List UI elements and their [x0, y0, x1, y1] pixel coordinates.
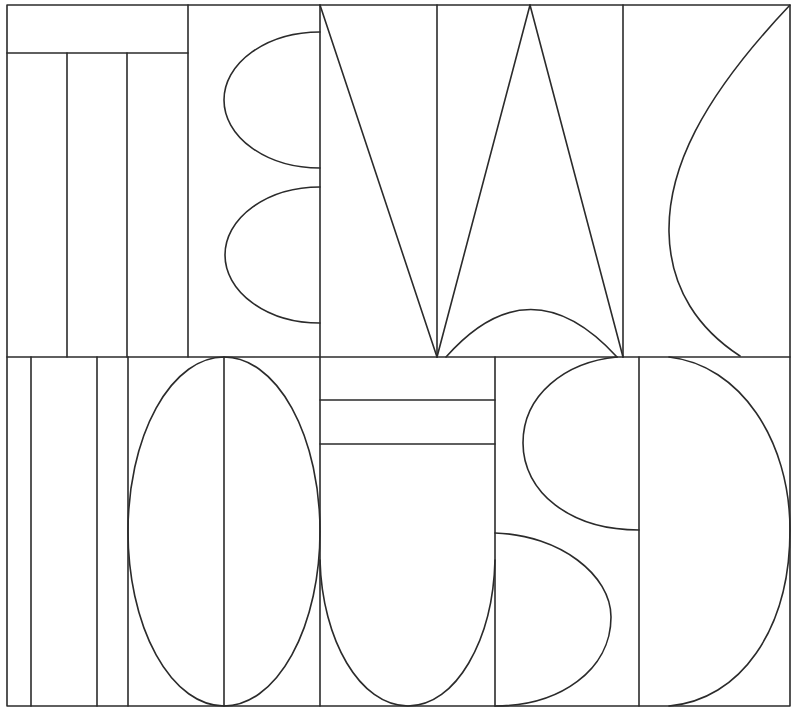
upper-half-ellipse [224, 32, 320, 168]
triangle-left-side [437, 5, 530, 357]
lower-half-ellipse [225, 187, 320, 323]
bottom-row-U-shape [320, 357, 495, 706]
u-curve [320, 560, 495, 706]
s-lower-bowl [495, 533, 611, 706]
s-upper-bowl [523, 357, 639, 530]
top-row-C-curve [669, 5, 790, 356]
bottom-arc [446, 310, 617, 358]
d-half-oval [669, 357, 790, 706]
sweeping-curve [669, 5, 790, 356]
bottom-row-O-ellipse [128, 357, 320, 706]
bottom-row-stripes [31, 357, 128, 706]
n-diagonal [320, 5, 437, 357]
top-row-B-half-ellipses [224, 5, 320, 706]
top-row-N-W-triangles [320, 5, 623, 357]
top-row-T-letter [7, 5, 188, 357]
geometric-lettering-artwork [0, 0, 798, 714]
outer-frame [7, 5, 790, 706]
bottom-row-S-shape [495, 357, 639, 706]
bottom-row-D-shape [669, 357, 790, 706]
triangle-right-side [530, 5, 623, 357]
